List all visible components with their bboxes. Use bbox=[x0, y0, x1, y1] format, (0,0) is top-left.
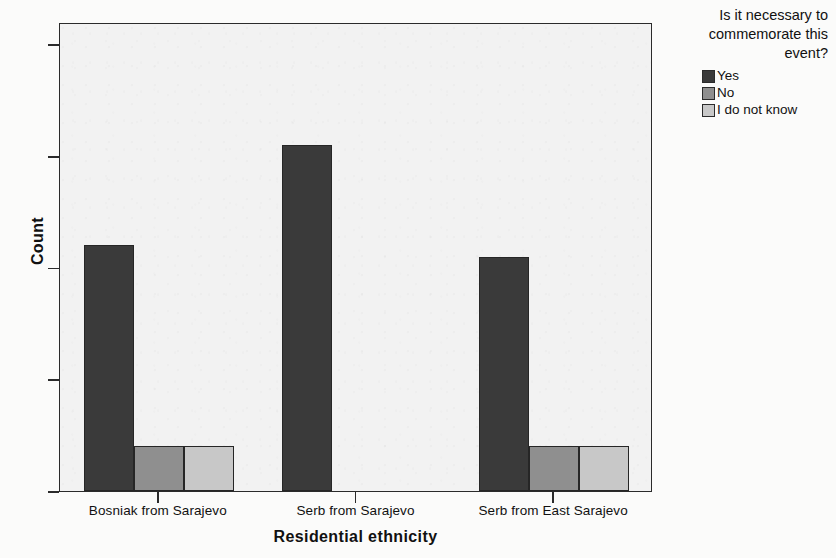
x-tick-label: Bosniak from Sarajevo bbox=[89, 503, 227, 518]
legend-item[interactable]: Yes bbox=[702, 68, 828, 84]
y-axis-title: Count bbox=[29, 181, 47, 301]
y-tick-mark bbox=[48, 44, 59, 46]
bar bbox=[579, 446, 629, 491]
legend-item[interactable]: I do not know bbox=[702, 102, 828, 118]
x-tick-label: Serb from East Sarajevo bbox=[478, 503, 627, 518]
legend-items: YesNoI do not know bbox=[702, 68, 828, 118]
bars-container bbox=[60, 24, 651, 491]
x-tick-mark bbox=[157, 492, 159, 503]
legend-item-label: Yes bbox=[717, 69, 739, 83]
bar bbox=[134, 446, 184, 491]
y-tick-mark bbox=[48, 491, 59, 493]
bar-chart: Count 010203040 Bosniak from SarajevoSer… bbox=[0, 0, 836, 558]
legend-swatch-icon bbox=[702, 87, 715, 100]
legend-title-line: event? bbox=[668, 44, 828, 63]
x-tick-mark bbox=[355, 492, 357, 503]
legend-swatch-icon bbox=[702, 104, 715, 117]
bar bbox=[282, 145, 332, 491]
x-tick-mark bbox=[552, 492, 554, 503]
y-tick-mark bbox=[48, 268, 59, 270]
legend: Is it necessary to commemorate this even… bbox=[668, 6, 828, 119]
x-axis-title: Residential ethnicity bbox=[59, 528, 652, 546]
legend-item-label: No bbox=[717, 86, 734, 100]
bar bbox=[184, 446, 234, 491]
y-tick-mark bbox=[48, 379, 59, 381]
y-tick-mark bbox=[48, 156, 59, 158]
plot-area bbox=[59, 23, 652, 492]
x-tick-label: Serb from Sarajevo bbox=[296, 503, 414, 518]
legend-title-line: commemorate this bbox=[668, 25, 828, 44]
legend-item-label: I do not know bbox=[717, 103, 797, 117]
legend-title: Is it necessary to commemorate this even… bbox=[668, 6, 828, 63]
bar bbox=[529, 446, 579, 491]
legend-swatch-icon bbox=[702, 70, 715, 83]
bar bbox=[84, 245, 134, 491]
bar bbox=[479, 257, 529, 492]
legend-title-line: Is it necessary to bbox=[668, 6, 828, 25]
legend-item[interactable]: No bbox=[702, 85, 828, 101]
